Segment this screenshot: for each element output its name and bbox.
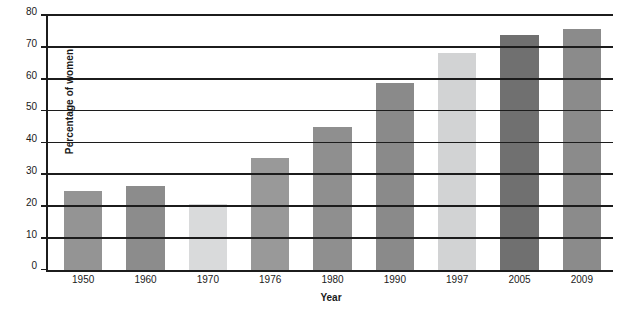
x-tick-label: 1990 xyxy=(384,274,406,285)
y-tick-mark xyxy=(41,142,46,144)
y-tick-mark xyxy=(41,205,46,207)
x-tick-label: 1980 xyxy=(321,274,343,285)
y-tick-mark xyxy=(41,46,46,48)
x-tick-label: 1976 xyxy=(259,274,281,285)
y-tick-mark xyxy=(41,269,46,271)
x-tick-label: 1997 xyxy=(446,274,468,285)
y-tick-label: 40 xyxy=(26,133,37,144)
y-tick-label: 10 xyxy=(26,228,37,239)
y-tick-mark xyxy=(41,173,46,175)
y-tick-label: 30 xyxy=(26,165,37,176)
x-tick-label: 1950 xyxy=(72,274,94,285)
x-tick-label: 1970 xyxy=(197,274,219,285)
x-tick-label: 2009 xyxy=(571,274,593,285)
y-axis-ticks: 01020304050607080 xyxy=(46,16,613,272)
y-tick-label: 70 xyxy=(26,37,37,48)
y-tick-label: 60 xyxy=(26,69,37,80)
x-tick-label: 2005 xyxy=(508,274,530,285)
figure-container: Percentage of women 01020304050607080 19… xyxy=(0,0,630,320)
y-tick-label: 50 xyxy=(26,101,37,112)
y-tick-label: 20 xyxy=(26,196,37,207)
x-tick-label: 1960 xyxy=(134,274,156,285)
y-tick-mark xyxy=(41,14,46,16)
y-tick-label: 80 xyxy=(26,6,37,17)
y-tick-label: 0 xyxy=(31,260,37,271)
plot-area: 01020304050607080 xyxy=(46,16,613,272)
x-axis-title: Year xyxy=(36,292,626,303)
y-tick-mark xyxy=(41,110,46,112)
y-tick-mark xyxy=(41,78,46,80)
x-axis-ticks: 195019601970197619801990199720052009 xyxy=(46,274,613,290)
y-tick-mark xyxy=(41,237,46,239)
